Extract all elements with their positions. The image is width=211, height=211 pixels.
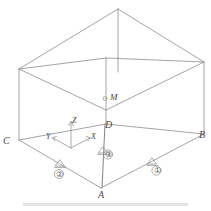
axis-triad <box>52 121 90 148</box>
axis-label-y: Y <box>46 133 50 141</box>
axis-label-x: X <box>91 133 96 141</box>
vertex-label-D: D <box>105 120 112 130</box>
figure-canvas: C B A D M Z X Y ① ② ③ <box>0 0 211 211</box>
ceiling-edge-right-front <box>106 58 204 62</box>
marker-label-2: ② <box>56 171 63 179</box>
footer-divider <box>23 203 188 206</box>
vertex-label-B: B <box>199 130 205 140</box>
floor-edge-C-A <box>19 140 101 188</box>
axis-line-y <box>53 138 71 148</box>
axis-label-z: Z <box>72 117 76 125</box>
floor-edge-A-B <box>101 134 204 188</box>
ceiling-edge-left-back <box>19 9 118 69</box>
ceiling-edge-back-right <box>118 9 204 62</box>
marker-label-1: ① <box>154 167 161 175</box>
floor-edge-B-D <box>106 124 204 134</box>
vertex-label-C: C <box>3 136 10 146</box>
marker-label-3: ③ <box>105 151 112 159</box>
wall-horizon-left <box>19 69 106 110</box>
vertex-label-A: A <box>98 190 104 200</box>
point-label-M: M <box>110 93 118 102</box>
box-wireframe <box>0 0 211 211</box>
axis-line-x <box>71 138 90 148</box>
wall-horizon-right <box>106 62 204 110</box>
ceiling-edge-front-left <box>19 58 106 69</box>
